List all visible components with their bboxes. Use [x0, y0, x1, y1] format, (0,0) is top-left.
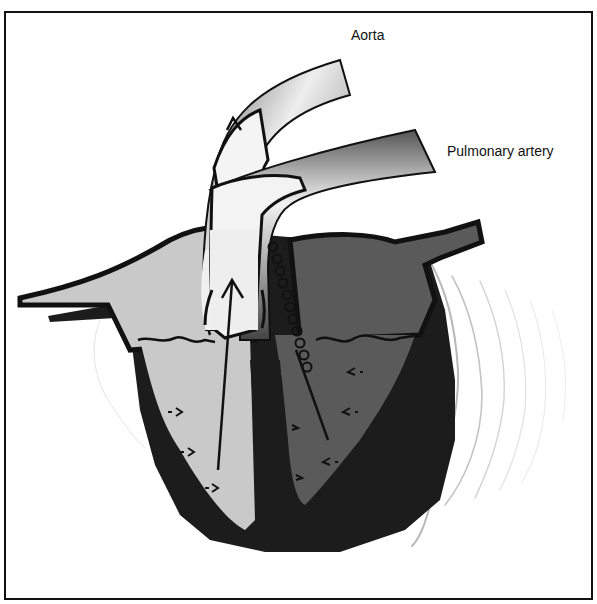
- aorta-label: Aorta: [351, 27, 384, 43]
- pulmonary-artery-label: Pulmonary artery: [447, 143, 554, 159]
- right-atrium: [290, 222, 482, 340]
- heart-diagram: [0, 0, 597, 604]
